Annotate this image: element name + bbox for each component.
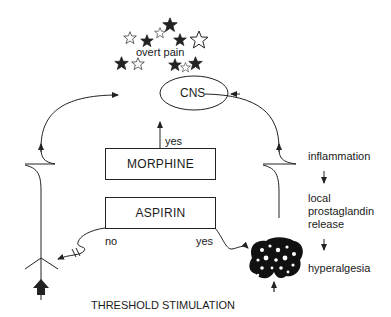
threshold-stimulation-label: THRESHOLD STIMULATION	[91, 299, 235, 312]
yes-morphine-label: yes	[165, 135, 182, 148]
release-label: release	[308, 218, 344, 231]
stimulus-arrow-icon	[33, 279, 49, 295]
yes-aspirin-label: yes	[196, 235, 213, 248]
no-aspirin-label: no	[105, 235, 117, 248]
local-label: local	[308, 192, 331, 205]
aspirin-label: ASPIRIN	[135, 206, 185, 220]
morphine-box: MORPHINE	[105, 148, 216, 180]
star-cluster-icon	[115, 18, 208, 72]
hyperalgesia-label: hyperalgesia	[308, 262, 370, 275]
aspirin-box: ASPIRIN	[105, 197, 216, 229]
prostaglandin-label: prostaglandin	[308, 205, 374, 218]
overt-pain-label: overt pain	[136, 46, 184, 59]
cns-label: CNS	[180, 87, 205, 100]
inflammation-label: inflammation	[308, 150, 370, 163]
inflamed-tissue-icon	[249, 237, 303, 278]
morphine-label: MORPHINE	[127, 157, 194, 171]
